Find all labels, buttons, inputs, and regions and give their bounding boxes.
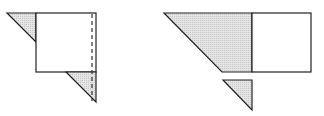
left-square <box>36 13 96 72</box>
shaded-trapezoid <box>164 13 252 72</box>
dissection-diagram <box>0 0 324 116</box>
small-triangle <box>223 80 252 110</box>
right-figure <box>164 13 311 110</box>
top-left-triangle <box>7 13 36 42</box>
right-square <box>252 13 311 72</box>
left-figure <box>7 13 96 102</box>
